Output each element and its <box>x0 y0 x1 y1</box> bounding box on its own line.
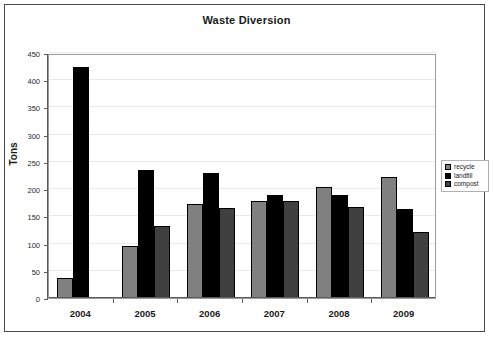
chart-legend: recyclelandfillcompost <box>441 160 489 192</box>
bar-landfill-2009[interactable] <box>397 209 413 298</box>
legend-item-compost[interactable]: compost <box>445 181 486 188</box>
bar-compost-2009[interactable] <box>413 232 429 298</box>
y-tick-label: 400 <box>6 77 40 86</box>
y-tick-label: 50 <box>6 268 40 277</box>
legend-swatch-icon-recycle <box>445 164 451 170</box>
bars-layer <box>49 55 435 298</box>
y-tick-label: 100 <box>6 241 40 250</box>
x-tick-mark <box>177 299 178 303</box>
x-tick-label-2008: 2008 <box>307 308 372 319</box>
bar-landfill-2007[interactable] <box>267 195 283 298</box>
x-tick-label-2009: 2009 <box>371 308 436 319</box>
y-tick-label: 0 <box>6 295 40 304</box>
bar-compost-2005[interactable] <box>154 226 170 298</box>
bar-recycle-2007[interactable] <box>251 201 267 298</box>
chart-screenshot: Waste Diversion Tons 0501001502002503003… <box>0 0 493 338</box>
bar-group-2009 <box>381 55 429 298</box>
bar-compost-2007[interactable] <box>283 201 299 298</box>
y-tick-label: 250 <box>6 159 40 168</box>
bar-recycle-2006[interactable] <box>187 204 203 298</box>
bar-landfill-2005[interactable] <box>138 170 154 298</box>
legend-swatch-icon-landfill <box>445 173 451 179</box>
x-tick-label-2004: 2004 <box>48 308 113 319</box>
bar-recycle-2008[interactable] <box>316 187 332 298</box>
x-axis-line <box>49 297 435 298</box>
bar-group-2004 <box>57 55 105 298</box>
bar-recycle-2009[interactable] <box>381 177 397 298</box>
bar-group-2008 <box>316 55 364 298</box>
x-tick-mark <box>371 299 372 303</box>
gridline <box>49 52 435 53</box>
y-tick-label: 300 <box>6 132 40 141</box>
bar-landfill-2006[interactable] <box>203 173 219 298</box>
x-tick-mark <box>113 299 114 303</box>
bar-recycle-2004[interactable] <box>57 278 73 298</box>
legend-item-landfill[interactable]: landfill <box>445 173 486 180</box>
bar-compost-2008[interactable] <box>348 207 364 298</box>
y-tick-label: 200 <box>6 186 40 195</box>
y-tick-label: 150 <box>6 213 40 222</box>
x-tick-label-2006: 2006 <box>177 308 242 319</box>
chart-title: Waste Diversion <box>0 14 493 26</box>
x-tick-mark <box>307 299 308 303</box>
legend-item-recycle[interactable]: recycle <box>445 164 486 171</box>
y-tick-label: 450 <box>6 50 40 59</box>
bar-landfill-2008[interactable] <box>332 195 348 298</box>
bar-compost-2006[interactable] <box>219 208 235 298</box>
x-tick-mark <box>242 299 243 303</box>
plot-area <box>48 54 436 299</box>
x-tick-label-2005: 2005 <box>113 308 178 319</box>
bar-group-2006 <box>187 55 235 298</box>
legend-label: landfill <box>454 173 472 180</box>
bar-group-2007 <box>251 55 299 298</box>
legend-label: recycle <box>454 164 475 171</box>
x-tick-label-2007: 2007 <box>242 308 307 319</box>
legend-label: compost <box>454 181 479 188</box>
bar-group-2005 <box>122 55 170 298</box>
legend-swatch-icon-compost <box>445 181 451 187</box>
y-tick-label: 350 <box>6 104 40 113</box>
bar-landfill-2004[interactable] <box>73 67 89 298</box>
bar-recycle-2005[interactable] <box>122 246 138 298</box>
y-tick-mark <box>44 299 48 300</box>
